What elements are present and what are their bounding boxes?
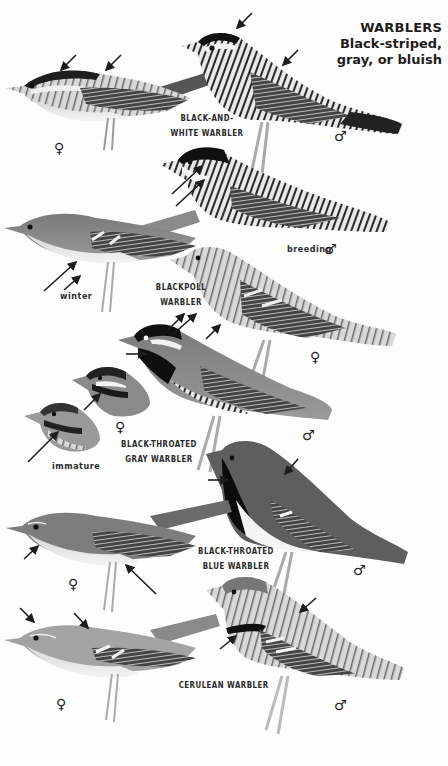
species-name-line1: CERULEAN WARBLER <box>179 677 258 692</box>
male-symbol-black-and-white: ♂ <box>334 129 347 143</box>
male-symbol-blackpoll-breeding: ♂ <box>324 242 337 256</box>
species-name-line2: WARBLER <box>144 294 218 309</box>
bird-black-throated-gray-warbler-immature <box>24 403 100 451</box>
species-name-line2: WHITE WARBLER <box>168 125 245 140</box>
note-immature: immature <box>52 460 100 471</box>
male-symbol-black-throated-gray: ♂ <box>302 428 315 442</box>
label-blackpoll-warbler: BLACKPOLL WARBLER <box>144 279 218 309</box>
species-name-line1: BLACKPOLL <box>144 279 218 294</box>
label-black-throated-gray-warbler: BLACK-THROATED GRAY WARBLER <box>117 436 201 466</box>
note-winter: winter <box>60 290 92 301</box>
female-symbol-black-throated-gray: ♀ <box>115 420 125 434</box>
bird-black-throated-gray-warbler-female <box>72 367 150 416</box>
species-name-line1: BLACK-THROATED <box>117 436 201 451</box>
female-symbol-black-throated-blue: ♀ <box>68 577 78 591</box>
species-name-line1: BLACK-THROATED <box>194 543 278 558</box>
bird-cerulean-warbler-male <box>206 577 404 734</box>
female-symbol-blackpoll: ♀ <box>310 350 320 364</box>
male-symbol-black-throated-blue: ♂ <box>353 563 366 577</box>
bird-cerulean-warbler-female <box>4 614 220 722</box>
label-black-throated-blue-warbler: BLACK-THROATED BLUE WARBLER <box>194 543 278 573</box>
female-symbol-cerulean: ♀ <box>56 697 66 711</box>
field-guide-plate: WARBLERS Black-striped, gray, or bluish <box>0 0 448 766</box>
female-symbol-black-and-white: ♀ <box>54 141 64 155</box>
male-symbol-cerulean: ♂ <box>334 698 347 712</box>
label-cerulean-warbler: CERULEAN WARBLER <box>179 677 258 692</box>
species-name-line2: GRAY WARBLER <box>117 451 201 466</box>
label-black-and-white-warbler: BLACK-AND- WHITE WARBLER <box>168 110 245 140</box>
species-name-line1: BLACK-AND- <box>168 110 245 125</box>
species-name-line2: BLUE WARBLER <box>194 558 278 573</box>
